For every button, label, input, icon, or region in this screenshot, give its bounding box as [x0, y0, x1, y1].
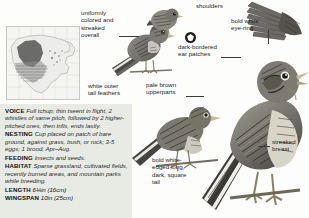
measurement-value-wingspan: 10in (25cm) — [41, 194, 73, 201]
info-label-feeding: FEEDING — [5, 154, 33, 161]
bird-illustration-small-top — [147, 4, 183, 36]
annotation-shoulders: shoulders — [196, 2, 238, 9]
annotation-bold-white-edged-tail: bold white-edged long,dark, squaretail — [152, 156, 194, 186]
info-entry-voice: VOICE Full tchup; thin tseent in flight,… — [5, 107, 128, 129]
info-entry-feeding: FEEDING Insects and seeds. — [5, 154, 128, 161]
leader-line-uniformly-colored — [119, 36, 139, 37]
measurement-label-wingspan: WINGSPAN — [5, 194, 39, 201]
leader-line-streaked-breast — [258, 146, 270, 147]
annotation-pale-brown-upperparts: pale brownupperparts — [146, 81, 190, 96]
measurement-length: LENGTH 6¼in (16cm) — [5, 186, 128, 194]
measurement-value-length: 6¼in (16cm) — [33, 186, 67, 193]
range-map-graphic — [7, 27, 79, 99]
range-map — [6, 26, 80, 100]
measurement-wingspan: WINGSPAN 10in (25cm) — [5, 194, 128, 202]
field-guide-page: VOICE Full tchup; thin tseent in flight,… — [0, 0, 309, 218]
annotation-bold-white-eye-ring: bold whiteeye-ring — [231, 17, 273, 32]
info-entry-nesting: NESTING Cup placed on patch of bare grou… — [5, 130, 128, 152]
info-label-habitat: HABITAT — [5, 162, 32, 169]
species-info-panel: VOICE Full tchup; thin tseent in flight,… — [0, 104, 132, 218]
info-entry-habitat: HABITAT Sparse grassland, cultivated fie… — [5, 162, 128, 184]
annotation-uniformly-colored: uniformlycolored andstreakedoverall — [81, 9, 125, 39]
annotation-dark-bordered-ear-patches: dark-borderedear patches — [178, 43, 228, 58]
leader-line-eye-ring — [268, 30, 269, 44]
info-label-nesting: NESTING — [5, 130, 33, 137]
leader-line-ear-patches — [221, 57, 241, 58]
leader-line-pale-brown-upperparts — [186, 96, 204, 97]
measurement-label-length: LENGTH — [5, 186, 31, 193]
info-text-feeding: Insects and seeds. — [35, 154, 86, 161]
annotation-streaked-breast: streakedbreast — [272, 138, 308, 153]
info-label-voice: VOICE — [5, 107, 25, 114]
publisher-logo-icon — [185, 32, 196, 43]
annotation-white-outer-tail: white outertail feathers — [88, 82, 132, 97]
